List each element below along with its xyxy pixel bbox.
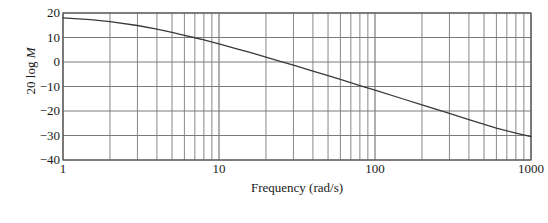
- x-axis-title: Frequency (rad/s): [63, 180, 531, 196]
- y-axis-title-symbol: M: [23, 48, 38, 59]
- y-axis-title: 20 log M: [22, 0, 40, 156]
- x-tick-label: 1000: [501, 161, 548, 177]
- grid-horizontal: [63, 13, 531, 160]
- magnitude-curve: [63, 18, 531, 137]
- x-tick-label: 100: [345, 161, 405, 177]
- x-tick-label: 1: [33, 161, 93, 177]
- bode-magnitude-plot: 20100−10−20−30−40 1101001000 20 log M Fr…: [0, 0, 548, 223]
- y-axis-title-text: 20 log: [23, 58, 38, 94]
- x-tick-label: 10: [189, 161, 249, 177]
